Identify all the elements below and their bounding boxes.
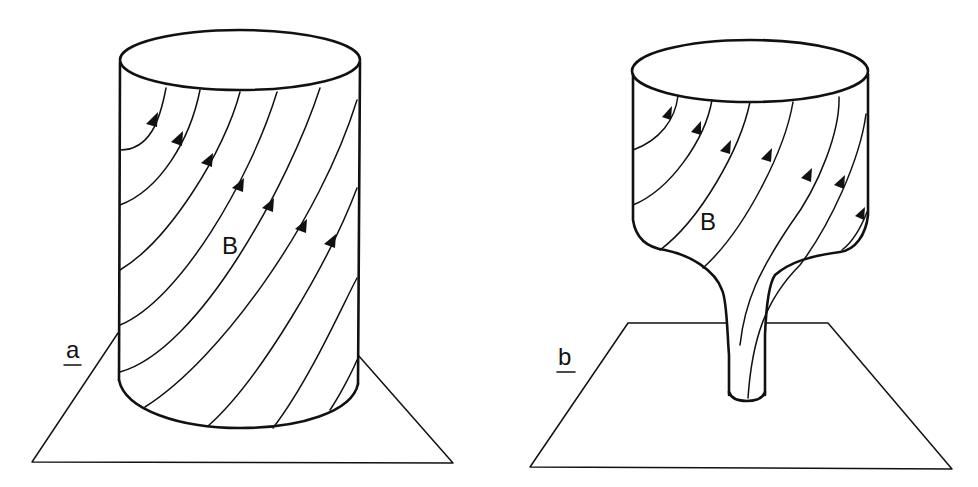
arrow-icon xyxy=(720,140,731,154)
panel-b: B b xyxy=(530,40,952,469)
arrow-icon xyxy=(834,175,845,189)
panel-a: B a xyxy=(32,30,453,463)
arrow-icon xyxy=(855,207,865,220)
arrow-icon xyxy=(262,198,274,212)
arrow-icon xyxy=(662,106,672,120)
figure-canvas: B a xyxy=(0,0,978,487)
arrow-icon xyxy=(801,168,812,182)
arrow-icon xyxy=(146,112,158,127)
arrow-icon xyxy=(171,131,183,146)
svg-text:a: a xyxy=(66,336,80,363)
panel-a-cylinder xyxy=(119,30,360,428)
arrow-icon xyxy=(761,148,772,162)
arrow-icon xyxy=(324,234,336,248)
panel-a-plane xyxy=(32,333,453,463)
panel-a-field-label: B xyxy=(222,232,238,259)
panel-a-label: a xyxy=(64,336,81,365)
panel-b-field-label: B xyxy=(700,208,716,235)
svg-text:b: b xyxy=(558,343,571,370)
panel-b-arrowheads xyxy=(662,106,865,220)
panel-b-plane xyxy=(530,323,952,469)
panel-b-label: b xyxy=(557,343,575,372)
arrow-icon xyxy=(232,178,244,192)
arrow-icon xyxy=(201,153,213,167)
panel-a-field-lines xyxy=(120,88,357,428)
arrow-icon xyxy=(691,121,701,135)
panel-b-flux-tube xyxy=(632,40,868,401)
panel-b-field-lines xyxy=(633,96,867,398)
